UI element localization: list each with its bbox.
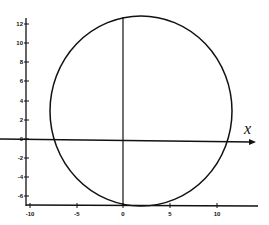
y-tick-label: -2 (18, 155, 24, 161)
y-tick-label: 6 (20, 78, 24, 84)
x-tick-label: 10 (214, 211, 221, 217)
x-axis-zero-line (0, 139, 252, 142)
y-tick-label: 4 (20, 98, 24, 104)
y-tick-label: 2 (20, 117, 24, 123)
y-tick-label: 12 (16, 21, 23, 27)
x-tick-label: -10 (26, 211, 35, 217)
x-tick-label: -5 (74, 211, 80, 217)
x-axis-arrow-icon (249, 139, 256, 145)
circle-curve (50, 16, 232, 206)
x-axis-label: x (243, 120, 251, 137)
circle-plot: x 121086420-2-4-6 -10-50510 (0, 0, 269, 225)
x-tick-label: 5 (168, 211, 172, 217)
y-ticks: 121086420-2-4-6 (16, 21, 29, 199)
y-tick-label: -6 (18, 193, 24, 199)
y-tick-label: 10 (16, 40, 23, 46)
y-tick-label: -4 (18, 174, 24, 180)
y-tick-label: 8 (20, 59, 24, 65)
x-tick-label: 0 (121, 211, 125, 217)
